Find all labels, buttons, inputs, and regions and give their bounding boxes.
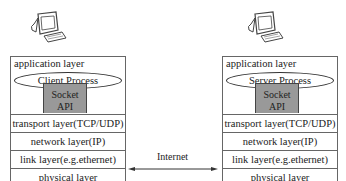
client-socket-api: Socket API: [43, 83, 87, 113]
application-layer-label: application layer: [226, 58, 296, 69]
internet-label: Internet: [157, 151, 188, 162]
server-network-layer: network layer(IP): [223, 133, 337, 151]
server-application-layer: application layer Server Process Socket …: [223, 57, 337, 115]
bidirectional-arrow-icon: [128, 166, 218, 172]
api-label: API: [256, 101, 298, 113]
client-computer-icon: [28, 8, 68, 46]
client-physical-layer: physical layer: [11, 169, 125, 181]
server-protocol-stack: application layer Server Process Socket …: [222, 56, 338, 181]
client-protocol-stack: application layer Client Process Socket …: [10, 56, 126, 181]
client-transport-layer: transport layer(TCP/UDP): [11, 115, 125, 133]
server-computer-icon: [245, 8, 285, 46]
socket-label: Socket: [44, 89, 86, 101]
client-application-layer: application layer Client Process Socket …: [11, 57, 125, 115]
client-network-layer: network layer(IP): [11, 133, 125, 151]
application-layer-label: application layer: [14, 58, 84, 69]
server-transport-layer: transport layer(TCP/UDP): [223, 115, 337, 133]
api-label: API: [44, 101, 86, 113]
server-physical-layer: physical layer: [223, 169, 337, 181]
client-link-layer: link layer(e.g.ethernet): [11, 151, 125, 169]
socket-label: Socket: [256, 89, 298, 101]
server-link-layer: link layer(e.g.ethernet): [223, 151, 337, 169]
server-socket-api: Socket API: [255, 83, 299, 113]
